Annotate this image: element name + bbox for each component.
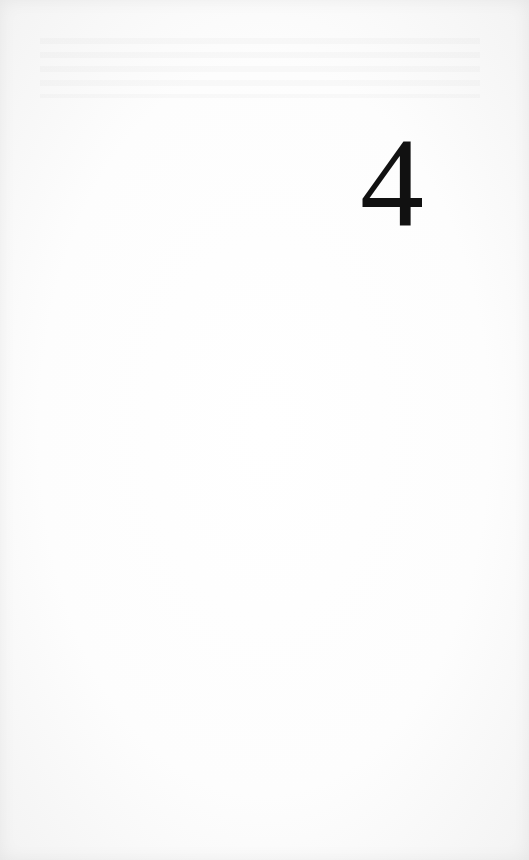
chapter-number: 4 <box>360 118 424 246</box>
document-page: 4 <box>0 0 529 860</box>
bleed-through-texture <box>40 38 480 98</box>
